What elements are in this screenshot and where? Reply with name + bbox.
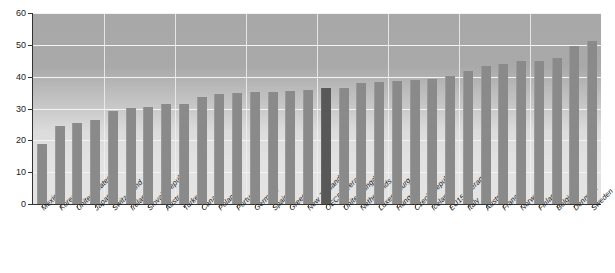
bar-france	[498, 64, 508, 204]
x-tick-mark	[166, 204, 167, 208]
bar-italy	[463, 71, 473, 204]
bar-finland	[534, 61, 544, 204]
x-tick-mark	[539, 204, 540, 208]
x-tick-mark	[184, 204, 185, 208]
y-tick-label: 40	[0, 73, 26, 82]
y-tick-label: 60	[0, 9, 26, 18]
bar-slovak-republic	[143, 107, 153, 204]
y-tick-mark	[28, 45, 33, 46]
x-tick-mark	[219, 204, 220, 208]
bar-belgium	[552, 58, 562, 204]
x-tick-mark	[237, 204, 238, 208]
x-tick-mark	[131, 204, 132, 208]
bar-new-zealand	[303, 90, 313, 204]
bar-oecd-average	[321, 88, 331, 204]
x-tick-mark	[592, 204, 593, 208]
y-tick-mark	[28, 140, 33, 141]
bar-netherlands	[356, 83, 366, 204]
x-tick-mark	[379, 204, 380, 208]
x-tick-mark	[290, 204, 291, 208]
x-tick-mark	[397, 204, 398, 208]
bar-sweden	[587, 41, 597, 204]
bar-poland	[214, 94, 224, 204]
bar-united-states	[72, 123, 82, 204]
x-tick-mark	[326, 204, 327, 208]
bar-canada	[197, 97, 207, 204]
x-tick-mark	[574, 204, 575, 208]
x-axis-labels: MexicoKoreaUnited StatesJapanSwitzerland…	[0, 206, 604, 273]
x-tick-mark	[95, 204, 96, 208]
gridline-vertical	[459, 13, 460, 204]
y-tick-label: 10	[0, 168, 26, 177]
bar-norway	[516, 61, 526, 204]
bar-hungary	[392, 81, 402, 204]
y-tick-label: 30	[0, 105, 26, 114]
x-tick-mark	[42, 204, 43, 208]
x-tick-mark	[344, 204, 345, 208]
bar-greece	[285, 91, 295, 204]
bar-luxembourg	[374, 82, 384, 204]
bar-turkey	[179, 104, 189, 204]
x-tick-mark	[521, 204, 522, 208]
bar-germany	[250, 92, 260, 204]
x-tick-mark	[361, 204, 362, 208]
x-tick-mark	[202, 204, 203, 208]
x-tick-mark	[503, 204, 504, 208]
x-tick-mark	[77, 204, 78, 208]
bar-spain	[268, 92, 278, 204]
bar-portugal	[232, 93, 242, 204]
x-tick-mark	[432, 204, 433, 208]
x-tick-mark	[557, 204, 558, 208]
bar-japan	[90, 120, 100, 204]
x-tick-mark	[486, 204, 487, 208]
x-tick-mark	[468, 204, 469, 208]
bar-united-kingdom	[339, 88, 349, 204]
bar-iceland	[427, 79, 437, 204]
bar-korea	[55, 126, 65, 204]
y-tick-mark	[28, 204, 33, 205]
x-tick-mark	[308, 204, 309, 208]
x-tick-mark	[60, 204, 61, 208]
x-tick-mark	[148, 204, 149, 208]
x-tick-mark	[273, 204, 274, 208]
bar-czech-republic	[410, 80, 420, 204]
gridline-vertical	[246, 13, 247, 204]
y-tick-mark	[28, 172, 33, 173]
x-tick-mark	[113, 204, 114, 208]
x-tick-mark	[255, 204, 256, 208]
y-tick-label: 20	[0, 136, 26, 145]
bar-denmark	[569, 46, 579, 204]
bar-eu15-average	[445, 76, 455, 204]
bar-mexico	[37, 144, 47, 204]
bar-ireland	[126, 108, 136, 204]
x-tick-mark	[450, 204, 451, 208]
bar-australia	[161, 104, 171, 204]
x-tick-mark	[415, 204, 416, 208]
y-tick-label: 50	[0, 41, 26, 50]
gridline-vertical	[530, 13, 531, 204]
y-tick-mark	[28, 13, 33, 14]
gridline-vertical	[317, 13, 318, 204]
bar-austria	[481, 66, 491, 204]
bar-switzerland	[108, 111, 118, 204]
y-tick-mark	[28, 109, 33, 110]
y-tick-mark	[28, 77, 33, 78]
chart-title	[0, 0, 604, 11]
gridline-vertical	[388, 13, 389, 204]
